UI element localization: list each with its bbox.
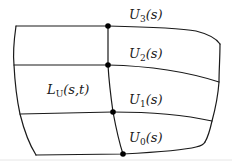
right-boundary-curve (205, 44, 220, 142)
label-u0: U0(s) (129, 130, 163, 147)
point-u3 (105, 23, 111, 29)
lofted-surface-diagram: U3(s) U2(s) U1(s) U0(s) LU(s,t) (0, 0, 232, 162)
curve-u3 (16, 26, 220, 44)
label-surface: LU(s,t) (46, 82, 89, 99)
left-boundary-curve (14, 26, 36, 155)
label-u3: U3(s) (129, 7, 163, 24)
point-u2 (105, 62, 111, 68)
curve-u1 (20, 112, 212, 121)
label-u2: U2(s) (129, 46, 163, 63)
iso-parameter-curve (108, 26, 123, 154)
curve-u2 (14, 65, 219, 82)
point-u0 (120, 151, 126, 157)
label-u1: U1(s) (129, 92, 163, 109)
point-u1 (110, 109, 116, 115)
